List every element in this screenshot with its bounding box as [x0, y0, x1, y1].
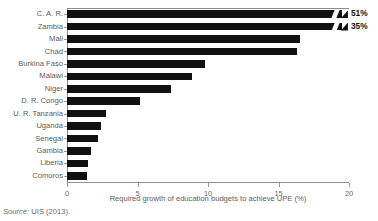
y-axis-tick — [64, 163, 67, 164]
bar — [67, 85, 171, 93]
y-axis-label: Comoros — [32, 171, 63, 180]
bar — [67, 122, 101, 130]
y-axis-tick — [64, 151, 67, 152]
bar — [67, 48, 297, 56]
y-axis-label: Burkina Faso — [18, 59, 63, 68]
y-axis-tick — [64, 76, 67, 77]
y-axis-label: C. A. R. — [37, 9, 63, 18]
y-axis-label: Gambia — [36, 146, 63, 155]
bar-row — [67, 145, 349, 157]
y-axis-label: Chad — [45, 47, 63, 56]
bar-row — [67, 83, 349, 95]
bar — [67, 172, 87, 180]
y-axis-tick — [64, 114, 67, 115]
bar — [67, 110, 106, 118]
bar — [67, 135, 98, 143]
y-axis-tick — [64, 138, 67, 139]
bar-row — [67, 170, 349, 182]
bar-row — [67, 45, 349, 57]
x-axis-title: Required growth of education budgets to … — [67, 194, 349, 203]
bar — [67, 73, 192, 81]
source-note: Source: UIS (2013). — [3, 207, 70, 216]
x-axis-tick — [138, 183, 139, 187]
bar-row — [67, 70, 349, 82]
y-axis-labels: C. A. R.ZambiaMaliChadBurkina FasoMalawi… — [0, 8, 63, 182]
y-axis-tick — [64, 126, 67, 127]
bar-row — [67, 20, 349, 32]
y-axis-tick — [64, 14, 67, 15]
bar-value-label: 51% — [351, 9, 368, 18]
y-axis-label: Uganda — [36, 121, 63, 130]
plot-area: 05101520 — [67, 8, 349, 182]
axis-break-marker — [341, 23, 348, 31]
y-axis-label: Niger — [45, 84, 63, 93]
y-axis-tick — [64, 89, 67, 90]
bar — [67, 97, 140, 105]
bar-row — [67, 8, 349, 20]
y-axis-label: U. R. Tanzania — [13, 109, 63, 118]
bar-row — [67, 157, 349, 169]
bar — [67, 147, 91, 155]
y-axis-tick — [64, 39, 67, 40]
bar — [67, 10, 342, 18]
y-axis-label: Zambia — [38, 22, 63, 31]
bar-row — [67, 120, 349, 132]
bar-chart-figure: C. A. R.ZambiaMaliChadBurkina FasoMalawi… — [0, 0, 378, 221]
axis-break-marker — [341, 10, 348, 18]
x-axis-tick — [349, 183, 350, 187]
bar-row — [67, 132, 349, 144]
y-axis-tick — [64, 101, 67, 102]
bar-row — [67, 107, 349, 119]
bar — [67, 35, 300, 43]
y-axis-tick — [64, 176, 67, 177]
y-axis-label: Senegal — [35, 134, 63, 143]
source-prefix: Source: — [3, 207, 29, 216]
y-axis-label: Mali — [49, 34, 63, 43]
bar — [67, 60, 205, 68]
y-axis-tick — [64, 27, 67, 28]
x-axis-tick — [67, 183, 68, 187]
bar-row — [67, 33, 349, 45]
bar-row — [67, 95, 349, 107]
y-axis-label: Malawi — [39, 71, 63, 80]
source-body: UIS (2013). — [29, 207, 70, 216]
x-axis-tick — [208, 183, 209, 187]
x-axis-tick — [279, 183, 280, 187]
y-axis-tick — [64, 51, 67, 52]
y-axis-label: Liberia — [40, 158, 63, 167]
bar — [67, 160, 88, 168]
y-axis-label: D. R. Congo — [21, 96, 63, 105]
y-axis-tick — [64, 64, 67, 65]
bar-row — [67, 58, 349, 70]
bar — [67, 23, 342, 31]
bar-value-label: 35% — [351, 22, 368, 31]
